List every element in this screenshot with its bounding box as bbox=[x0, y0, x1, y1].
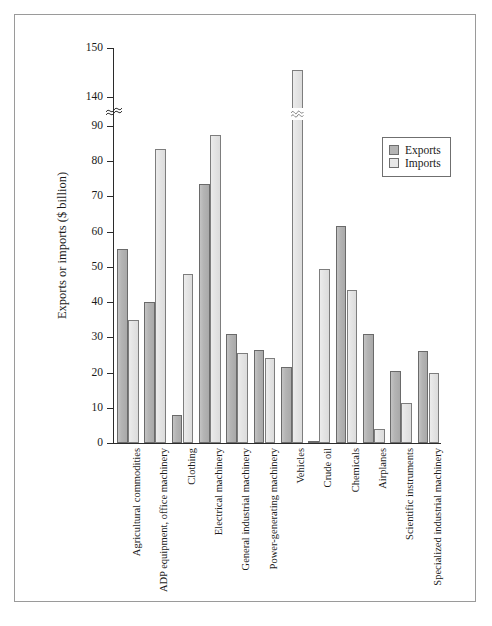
y-tick-label: 70 bbox=[92, 191, 104, 203]
y-tick-label: 60 bbox=[92, 226, 104, 238]
y-tick-label: 30 bbox=[92, 332, 104, 344]
y-axis-title: Exports or imports ($ billion) bbox=[55, 48, 71, 443]
category-label: Specialized industrial machinery bbox=[433, 448, 444, 586]
y-axis-line bbox=[113, 48, 114, 443]
y-tick-label: 150 bbox=[86, 42, 103, 54]
y-tick-mark bbox=[107, 267, 113, 268]
category-label: Airplanes bbox=[378, 448, 389, 489]
y-axis-title-text: Exports or imports ($ billion) bbox=[56, 172, 71, 319]
category-label: Chemicals bbox=[351, 448, 362, 492]
legend-swatch-imports bbox=[389, 158, 399, 168]
bar-group bbox=[226, 48, 248, 443]
bar-imports bbox=[128, 320, 139, 443]
bar-imports bbox=[401, 403, 412, 444]
y-tick-label: 40 bbox=[92, 296, 104, 308]
bar-exports bbox=[390, 371, 401, 443]
bar-exports bbox=[281, 367, 292, 443]
bar-imports bbox=[319, 269, 330, 443]
bar-group bbox=[308, 48, 330, 443]
y-tick-mark bbox=[107, 48, 113, 49]
bar-group bbox=[144, 48, 166, 443]
bar-exports bbox=[199, 184, 210, 443]
bar-imports bbox=[265, 358, 276, 443]
category-label: ADP equipment, office machinery bbox=[159, 448, 170, 592]
plot-area: 0102030405060708090140150 bbox=[113, 48, 441, 443]
x-axis-line bbox=[113, 443, 441, 444]
bar-break-icon bbox=[291, 106, 304, 118]
category-label: Agricultural commodities bbox=[132, 448, 143, 556]
bar-exports bbox=[226, 334, 237, 443]
bar-exports bbox=[117, 249, 128, 443]
category-label: Clothing bbox=[187, 448, 198, 485]
bar-group bbox=[172, 48, 194, 443]
y-tick-label: 50 bbox=[92, 261, 104, 273]
bar-imports bbox=[183, 274, 194, 443]
y-tick-mark bbox=[107, 443, 113, 444]
bar-exports bbox=[254, 350, 265, 443]
figure-page: Exports or imports ($ billion) 010203040… bbox=[0, 0, 492, 626]
category-label: Electrical machinery bbox=[214, 448, 225, 535]
y-tick-mark bbox=[107, 373, 113, 374]
y-tick-mark bbox=[107, 337, 113, 338]
y-tick-label: 90 bbox=[92, 120, 104, 132]
bar-exports bbox=[418, 351, 429, 443]
bar-group bbox=[199, 48, 221, 443]
category-label: General industrial machinery bbox=[241, 448, 252, 570]
y-tick-label: 10 bbox=[92, 402, 104, 414]
bar-group bbox=[418, 48, 440, 443]
y-tick-label: 20 bbox=[92, 367, 104, 379]
bar-imports bbox=[292, 70, 303, 443]
bar-imports bbox=[155, 149, 166, 443]
legend-item-imports: Imports bbox=[389, 158, 441, 170]
y-tick-mark bbox=[107, 161, 113, 162]
bar-group bbox=[117, 48, 139, 443]
y-tick-mark bbox=[107, 302, 113, 303]
y-tick-mark bbox=[107, 232, 113, 233]
bar-exports bbox=[172, 415, 183, 443]
bar-group bbox=[363, 48, 385, 443]
legend-swatch-exports bbox=[389, 145, 399, 155]
legend-label-imports: Imports bbox=[405, 158, 441, 170]
category-label: Vehicles bbox=[296, 448, 307, 484]
y-tick-mark bbox=[107, 126, 113, 127]
bar-imports bbox=[374, 429, 385, 443]
y-tick-label: 0 bbox=[97, 437, 103, 449]
y-tick-label: 140 bbox=[86, 91, 103, 103]
bar-imports bbox=[347, 290, 358, 443]
bar-exports bbox=[308, 441, 319, 443]
y-tick-mark bbox=[107, 408, 113, 409]
y-tick-mark bbox=[107, 97, 113, 98]
category-label: Scientific instruments bbox=[405, 448, 416, 540]
bar-group bbox=[254, 48, 276, 443]
bar-imports bbox=[429, 373, 440, 443]
y-tick-label: 80 bbox=[92, 155, 104, 167]
category-label: Crude oil bbox=[323, 448, 334, 487]
bar-group bbox=[281, 48, 303, 443]
bar-imports bbox=[237, 353, 248, 443]
bar-exports bbox=[336, 226, 347, 443]
y-tick-mark bbox=[107, 196, 113, 197]
bar-group bbox=[336, 48, 358, 443]
legend-item-exports: Exports bbox=[389, 145, 441, 157]
bar-exports bbox=[363, 334, 374, 443]
bar-group bbox=[390, 48, 412, 443]
figure-frame: Exports or imports ($ billion) 010203040… bbox=[14, 14, 476, 602]
category-label: Power-generating machinery bbox=[269, 448, 280, 569]
bar-exports bbox=[144, 302, 155, 443]
legend: Exports Imports bbox=[382, 137, 451, 177]
legend-label-exports: Exports bbox=[405, 145, 441, 157]
bar-imports bbox=[210, 135, 221, 443]
